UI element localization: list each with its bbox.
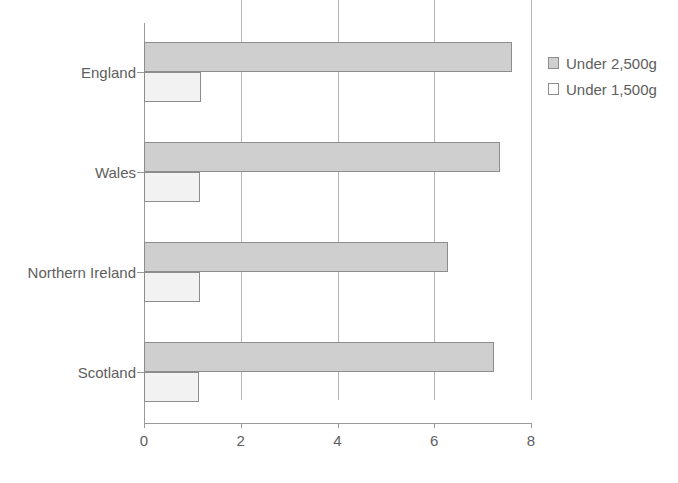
y-axis-tick bbox=[137, 272, 144, 273]
legend-label: Under 2,500g bbox=[566, 55, 657, 72]
legend-item: Under 1,500g bbox=[548, 76, 657, 102]
x-axis-tick-label: 0 bbox=[140, 432, 148, 449]
legend-swatch-icon bbox=[548, 57, 559, 69]
y-axis-tick bbox=[137, 72, 144, 73]
bar-northern-ireland-series-1 bbox=[144, 272, 200, 302]
legend-item: Under 2,500g bbox=[548, 50, 657, 76]
legend-label: Under 1,500g bbox=[566, 81, 657, 98]
category-label-scotland: Scotland bbox=[0, 364, 136, 381]
bar-chart: 02468 EnglandWalesNorthern IrelandScotla… bbox=[0, 0, 678, 483]
x-axis-line bbox=[144, 423, 532, 424]
category-label-england: England bbox=[0, 64, 136, 81]
bar-wales-series-1 bbox=[144, 172, 200, 202]
bar-wales-series-0 bbox=[144, 142, 500, 172]
gridline bbox=[531, 0, 532, 400]
category-label-northern-ireland: Northern Ireland bbox=[0, 264, 136, 281]
x-axis-tick-label: 2 bbox=[237, 432, 245, 449]
bar-england-series-1 bbox=[144, 72, 201, 102]
bar-england-series-0 bbox=[144, 42, 512, 72]
x-axis-tick-label: 8 bbox=[527, 432, 535, 449]
y-axis-tick bbox=[137, 372, 144, 373]
chart-legend: Under 2,500gUnder 1,500g bbox=[548, 50, 657, 102]
bar-northern-ireland-series-0 bbox=[144, 242, 448, 272]
x-axis-tick-label: 6 bbox=[430, 432, 438, 449]
bar-scotland-series-0 bbox=[144, 342, 494, 372]
category-label-wales: Wales bbox=[0, 164, 136, 181]
legend-swatch-icon bbox=[548, 83, 559, 95]
y-axis-tick bbox=[137, 172, 144, 173]
bar-scotland-series-1 bbox=[144, 372, 199, 402]
x-axis-tick-label: 4 bbox=[333, 432, 341, 449]
